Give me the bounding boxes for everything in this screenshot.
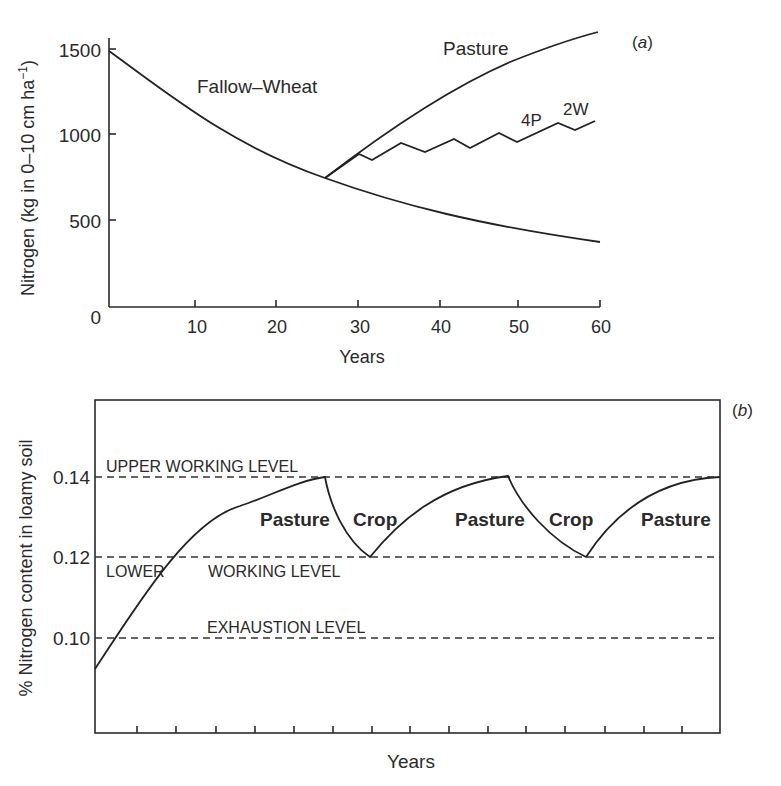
- y-tick-label: 0.12: [53, 547, 90, 568]
- y-tick-label: 1500: [59, 40, 101, 61]
- x-tick-label: 50: [509, 317, 529, 337]
- 2w-label: 2W: [563, 100, 589, 119]
- panel-b-label: (b): [732, 401, 753, 420]
- y-tick-label: 0.14: [53, 467, 90, 488]
- phase-label-pasture: Pasture: [641, 509, 711, 530]
- y-tick-label: 500: [69, 211, 101, 232]
- figure: 1500 1000 500 0 10 20 30 40 50 60 Years …: [0, 0, 781, 786]
- y-tick-label: 0.10: [53, 628, 90, 649]
- pasture-label: Pasture: [443, 38, 508, 59]
- panel-a-y-axis-label: Nitrogen (kg in 0–10 cm ha−1): [16, 60, 38, 296]
- x-tick-label: 60: [591, 317, 611, 337]
- phase-label-pasture: Pasture: [455, 509, 525, 530]
- fallow-wheat-curve: [109, 51, 600, 242]
- x-tick-label: 40: [431, 317, 451, 337]
- y-tick-label: 1000: [59, 125, 101, 146]
- nitrogen-content-curve: [95, 476, 720, 669]
- panel-b-x-ticks: [137, 726, 682, 733]
- panel-b-frame: [95, 400, 720, 733]
- x-tick-label: 10: [187, 317, 207, 337]
- x-tick-label: 30: [350, 317, 370, 337]
- fallow-wheat-label: Fallow–Wheat: [197, 76, 318, 97]
- panel-a-x-axis-label: Years: [339, 347, 384, 367]
- panel-b-y-axis-label: % Nitrogen content in loamy soil: [16, 439, 36, 696]
- x-tick-label: 20: [267, 317, 287, 337]
- working-level-label: WORKING LEVEL: [208, 563, 341, 580]
- upper-working-level-label: UPPER WORKING LEVEL: [106, 458, 298, 475]
- panel-b-x-axis-label: Years: [387, 751, 435, 772]
- phase-label-pasture: Pasture: [260, 509, 330, 530]
- y-tick-label: 0: [90, 307, 101, 328]
- lower-label: LOWER: [106, 563, 165, 580]
- phase-label-crop: Crop: [353, 509, 397, 530]
- phase-label-crop: Crop: [549, 509, 593, 530]
- panel-a-chart: 1500 1000 500 0 10 20 30 40 50 60 Years …: [16, 32, 653, 367]
- panel-b-chart: 0.14 0.12 0.10 UPPER WORKING LEVEL LOWER…: [16, 400, 753, 772]
- exhaustion-level-label: EXHAUSTION LEVEL: [207, 619, 365, 636]
- panel-a-label: (a): [632, 33, 653, 52]
- 4p-2w-curve: [325, 121, 595, 178]
- 4p-label: 4P: [521, 111, 542, 130]
